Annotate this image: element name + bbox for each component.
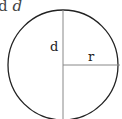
- radius-label: r: [88, 49, 95, 64]
- diagram-stage: d d d r: [0, 0, 122, 119]
- circle-diagram: d r: [0, 0, 122, 119]
- diameter-label: d: [50, 39, 58, 54]
